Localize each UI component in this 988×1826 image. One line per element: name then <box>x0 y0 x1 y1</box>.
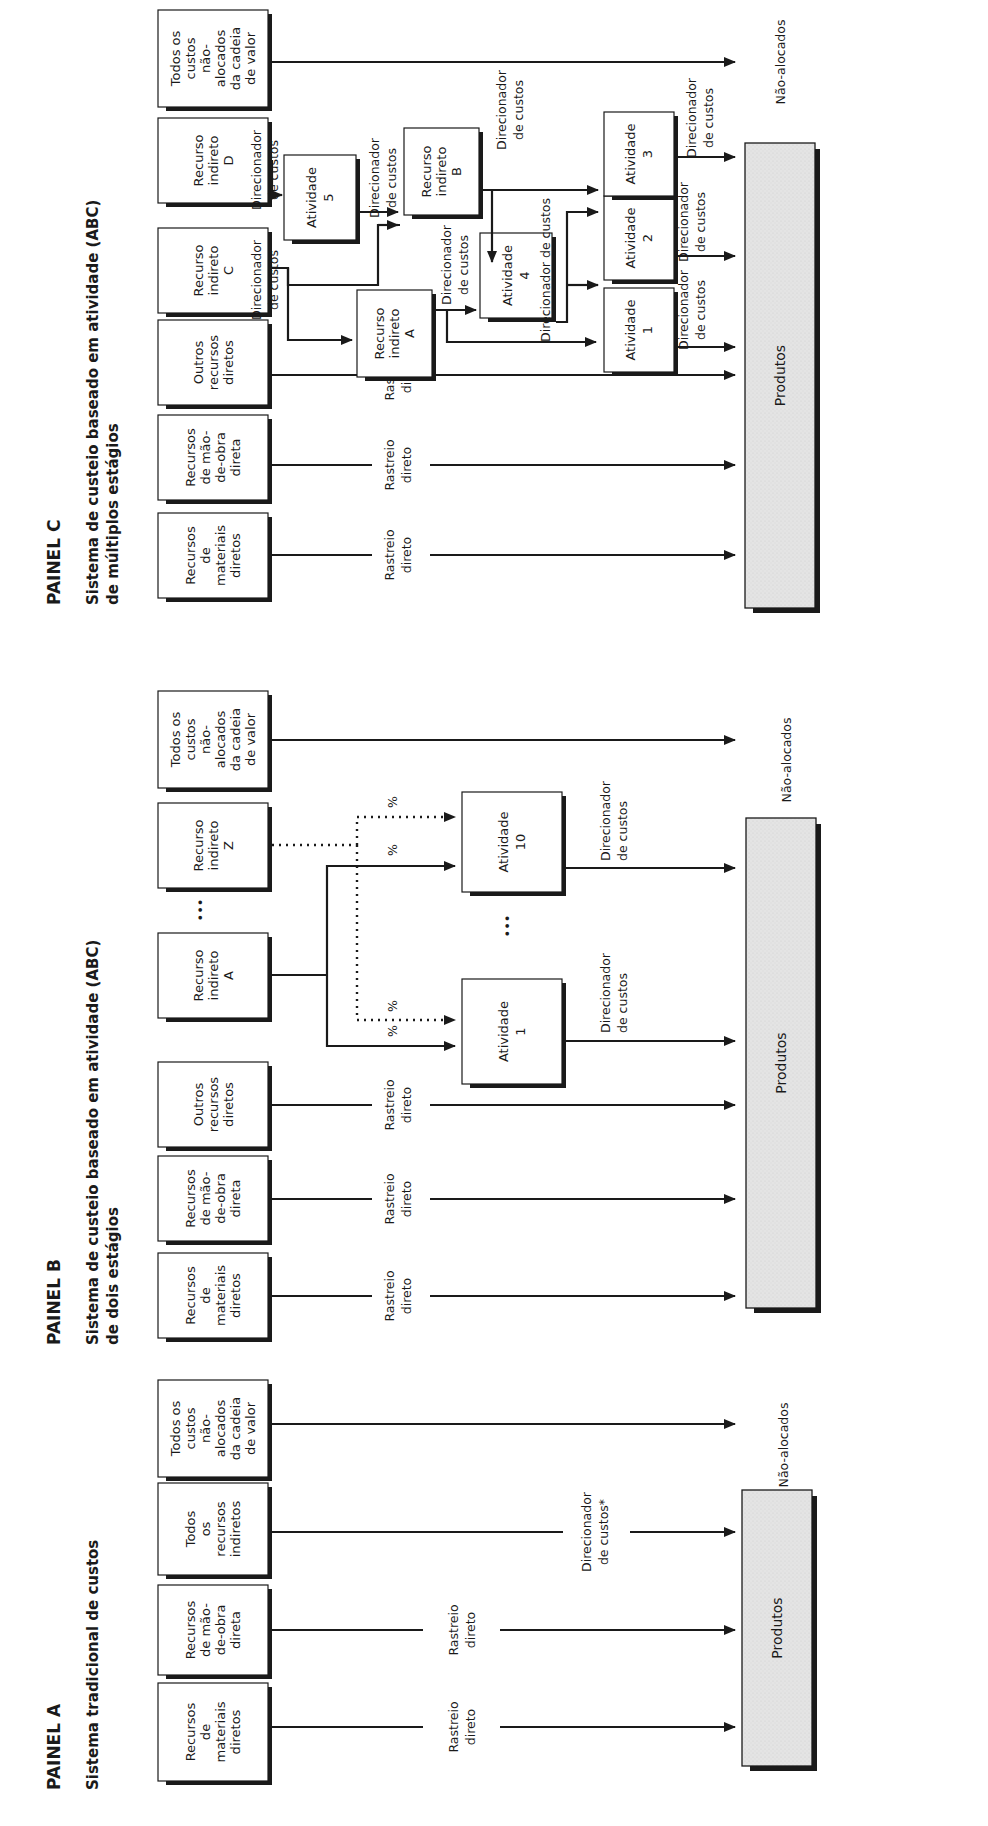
panel-a-source-3-label-line: Todos os <box>168 1401 183 1458</box>
panel-a-source-2-label-line: indiretos <box>228 1500 243 1557</box>
panel-b-percent-1-line: % <box>385 1000 400 1012</box>
panel-b-driver-label-10-line: de custos <box>615 801 630 861</box>
panel-c-activity-4-label-line: Atividade <box>500 245 515 306</box>
panel-a-source-0-label-line: de <box>198 1724 213 1740</box>
panel-b-source-2-label-line: Outros <box>191 1083 206 1127</box>
panel-b-source-1-label-line: Recursos <box>183 1169 198 1228</box>
panel-a-source-2-label-line: Todos <box>183 1510 198 1548</box>
panel-a-source-2-label-line: os <box>198 1521 213 1536</box>
panel-b-source-4-label-line: Recurso <box>191 820 206 872</box>
panel-c-driver-label-act2-line: de custos <box>693 192 708 252</box>
panel-c-source-0-label-line: diretos <box>228 533 243 578</box>
panel-c-activity-3-label-line: 3 <box>640 150 655 158</box>
panel-b-direct-label-0-line: Rastreio <box>382 1270 397 1321</box>
connector-line <box>556 212 598 322</box>
panel-a-direct-label-1-line: Rastreio <box>446 1701 461 1752</box>
panel-a-title-line: PAINEL A <box>44 1703 64 1790</box>
connector-line <box>357 845 455 1020</box>
panel-a-source-0-label-line: diretos <box>228 1709 243 1754</box>
panel-a-source-3-label-line: alocados <box>213 1399 228 1457</box>
panel-b-source-5-label-line: de valor <box>243 712 258 766</box>
panel-c-source-5-label-line: não- <box>198 44 213 73</box>
panel-c-driver-label-act3-line: Direcionador <box>684 77 699 158</box>
panel-c-source-2-label-line: recursos <box>206 335 221 391</box>
panel-c-source-1-label-line: direta <box>228 439 243 477</box>
panel-c-source-1-label-line: de mão- <box>198 430 213 484</box>
panel-a-source-3-label: Todos oscustosnão-alocadosda cadeiade va… <box>168 1397 258 1460</box>
panel-a-source-3-label-line: custos <box>183 1407 198 1449</box>
panel-c-driver-label-b-line: Direcionador <box>494 69 509 150</box>
panel-b-percent-3: % <box>385 796 400 808</box>
panel-c-driver-label-4: Direcionador de custos <box>538 198 553 342</box>
panel-a-source-3-label-line: da cadeia <box>228 1397 243 1460</box>
panel-b-title: PAINEL B <box>44 1259 64 1345</box>
panel-a-driver-label-line: Direcionador <box>579 1491 594 1572</box>
panel-b-source-3-label-line: A <box>221 971 236 980</box>
panel-c-resource-a-label-line: indireto <box>387 309 402 359</box>
panel-a-direct-label-1: Rastreiodireto <box>446 1701 478 1752</box>
panel-b-percent-0-line: % <box>385 1025 400 1037</box>
panel-b-source-1-label-line: direta <box>228 1180 243 1218</box>
panel-c-products-label-line: Produtos <box>772 345 788 406</box>
panel-b-driver-label-10: Direcionadorde custos <box>598 780 630 861</box>
panel-c-activity-2-label-line: Atividade <box>623 207 638 268</box>
panel-b-activity-10-label-line: 10 <box>513 834 528 851</box>
panel-b-source-1-label-line: de mão- <box>198 1171 213 1225</box>
panel-c-resource-b-label-line: B <box>449 167 464 176</box>
panel-b-source-3-label-line: indireto <box>206 951 221 1001</box>
panel-c-source-0-label-line: materiais <box>213 525 228 586</box>
panel-c-driver-label-5-line: Direcionador <box>367 137 382 218</box>
panel-c-driver-label-c-line: de custos <box>266 250 281 310</box>
panel-c-direct-label-0-line: direto <box>399 537 414 574</box>
panel-c-activity-5-label-line: Atividade <box>304 167 319 228</box>
panel-a-products-label: Produtos <box>769 1597 785 1658</box>
panel-b-source-2-label-line: diretos <box>221 1082 236 1127</box>
panel-c-source-0-label-line: de <box>198 547 213 563</box>
panel-a-direct-label-1-line: direto <box>463 1709 478 1746</box>
panel-c-unallocated-top-line: Não-alocados <box>773 20 788 105</box>
panel-c-driver-label-4-line: Direcionador de custos <box>538 198 553 342</box>
panel-b-percent-1: % <box>385 1000 400 1012</box>
panel-b-source-2-label: Outrosrecursosdiretos <box>191 1077 236 1133</box>
panel-c-driver-label-d-line: de custos <box>266 140 281 200</box>
panel-b-source-3-label-line: Recurso <box>191 950 206 1002</box>
panel-b-activity-ellipsis-line: ••• <box>500 914 515 937</box>
cost-system-diagram: PAINEL ASistema tradicional de custosRec… <box>0 0 988 1826</box>
panel-c-source-1-label-line: de-obra <box>213 432 228 483</box>
panel-c-source-4-label-line: D <box>221 155 236 165</box>
panel-a-source-3-label-line: de valor <box>243 1401 258 1455</box>
panel-b-resource-ellipsis: ••• <box>193 898 208 921</box>
panel-c-source-5-label-line: alocados <box>213 29 228 87</box>
panel-b-source-0-label-line: Recursos <box>183 1266 198 1325</box>
panel-c-subtitle-line: Sistema de custeio baseado em atividade … <box>84 200 102 605</box>
panel-b-activity-ellipsis: ••• <box>500 914 515 937</box>
panel-a-subtitle-line: Sistema tradicional de custos <box>84 1540 102 1790</box>
panel-c-activity-1-label-line: Atividade <box>623 299 638 360</box>
panel-c-products-label: Produtos <box>772 345 788 406</box>
panel-c-subtitle: Sistema de custeio baseado em atividade … <box>84 200 122 605</box>
panel-b-source-0-label-line: materiais <box>213 1265 228 1326</box>
panel-a-source-0-label-line: materiais <box>213 1701 228 1762</box>
panel-b-direct-label-0-line: direto <box>399 1278 414 1315</box>
panel-c-title-line: PAINEL C <box>44 520 64 605</box>
panel-a-source-0-label: Recursosdemateriaisdiretos <box>183 1701 243 1762</box>
panel-a-driver-label-line: de custos* <box>596 1499 611 1565</box>
panel-c-unallocated-top: Não-alocados <box>773 20 788 105</box>
panel-c-activity-2-label-line: 2 <box>640 234 655 242</box>
panel-c-activity-5-label-line: 5 <box>321 193 336 201</box>
panel-b-driver-label-1-line: Direcionador <box>598 952 613 1033</box>
panel-c-driver-label-5: Direcionadorde custos <box>367 137 399 218</box>
panel-c-activity-3-label-line: Atividade <box>623 123 638 184</box>
panel-b-title-line: PAINEL B <box>44 1259 64 1345</box>
panel-b-unallocated-label: Não-alocados <box>779 718 794 803</box>
panel-a-title: PAINEL A <box>44 1703 64 1790</box>
panel-a-unallocated-label-line: Não-alocados <box>776 1403 791 1488</box>
panel-c-driver-label-a: Direcionadorde custos <box>439 224 471 305</box>
panel-a-subtitle: Sistema tradicional de custos <box>84 1540 102 1790</box>
panel-b-source-5-label-line: Todos os <box>168 712 183 769</box>
panel-b-source-1-label-line: de-obra <box>213 1173 228 1224</box>
panel-a-direct-label-2-line: direto <box>463 1612 478 1649</box>
panel-b-activity-1-label-line: 1 <box>513 1027 528 1035</box>
panel-c-driver-label-b: Direcionadorde custos <box>494 69 526 150</box>
panel-c-source-3-label-line: indireto <box>206 246 221 296</box>
